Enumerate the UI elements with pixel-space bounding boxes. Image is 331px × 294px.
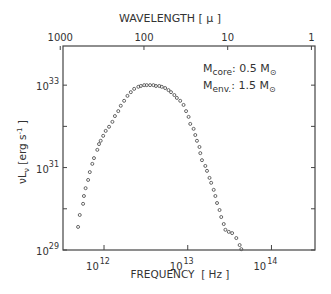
- data-point: [104, 129, 107, 132]
- data-point: [198, 145, 201, 148]
- data-point: [182, 103, 185, 106]
- data-point: [92, 157, 95, 160]
- data-point: [224, 228, 227, 231]
- data-point: [175, 96, 178, 99]
- data-point: [117, 110, 120, 113]
- x-tick-label: 1012: [86, 257, 110, 272]
- data-point: [214, 195, 217, 198]
- data-point: [227, 230, 230, 233]
- data-point: [99, 139, 102, 142]
- data-point: [164, 87, 167, 90]
- data-point: [88, 171, 91, 174]
- data-point: [220, 216, 223, 219]
- data-point: [87, 178, 90, 181]
- data-point: [133, 87, 136, 90]
- top-axis-label: WAVELENGTH [ μ ]: [119, 12, 221, 25]
- y-axis-label: νLν [erg s-1 ]: [16, 120, 31, 184]
- top-tick-label: 1: [308, 32, 314, 43]
- mass-annotation: Mcore: 0.5 M⊙: [203, 62, 276, 77]
- data-point: [123, 99, 126, 102]
- data-point: [199, 152, 202, 155]
- data-point: [218, 209, 221, 212]
- data-point: [208, 176, 211, 179]
- x-tick-label: 1014: [254, 257, 278, 272]
- mass-annotation: Menv.: 1.5 M⊙: [203, 79, 276, 94]
- data-point: [231, 232, 234, 235]
- data-point: [222, 223, 225, 226]
- data-point: [173, 94, 176, 97]
- data-point: [113, 115, 116, 118]
- data-point: [200, 159, 203, 162]
- data-point: [160, 85, 163, 88]
- y-tick-label: 1033: [36, 77, 59, 92]
- data-point: [102, 134, 105, 137]
- data-point: [216, 202, 219, 205]
- data-point: [192, 127, 195, 130]
- data-point: [187, 115, 190, 118]
- data-point: [84, 187, 87, 190]
- data-point: [195, 139, 198, 142]
- y-tick-label: 1031: [36, 160, 59, 175]
- data-point: [210, 181, 213, 184]
- data-point: [206, 169, 209, 172]
- data-point: [154, 84, 157, 87]
- sed-chart: 1012101310141029103110331000100101 WAVEL…: [0, 0, 331, 294]
- top-tick-label: 100: [134, 32, 153, 43]
- data-point: [212, 188, 215, 191]
- data-point: [240, 248, 243, 251]
- data-point: [149, 84, 152, 87]
- top-tick-label: 1000: [48, 32, 73, 43]
- data-point: [129, 91, 132, 94]
- data-point: [179, 99, 182, 102]
- data-point: [111, 120, 114, 123]
- data-point: [139, 84, 142, 87]
- data-point: [78, 213, 81, 216]
- data-point: [189, 122, 192, 125]
- data-point: [96, 148, 99, 151]
- x-axis-label: FREQUENCY [ Hz ]: [131, 268, 230, 280]
- data-point: [185, 110, 188, 113]
- data-point: [170, 91, 173, 94]
- data-point: [119, 104, 122, 107]
- data-point: [82, 195, 85, 198]
- data-point: [82, 202, 85, 205]
- data-point: [91, 162, 94, 165]
- data-point: [108, 125, 111, 128]
- data-point: [235, 237, 238, 240]
- data-point: [126, 94, 129, 97]
- y-tick-label: 1029: [36, 242, 59, 257]
- top-tick-label: 10: [221, 32, 234, 43]
- data-point: [238, 244, 241, 247]
- data-point: [204, 164, 207, 167]
- plot-frame: [63, 46, 315, 250]
- data-point: [98, 143, 101, 146]
- data-point: [77, 225, 80, 228]
- data-point: [194, 134, 197, 137]
- data-point: [145, 84, 148, 87]
